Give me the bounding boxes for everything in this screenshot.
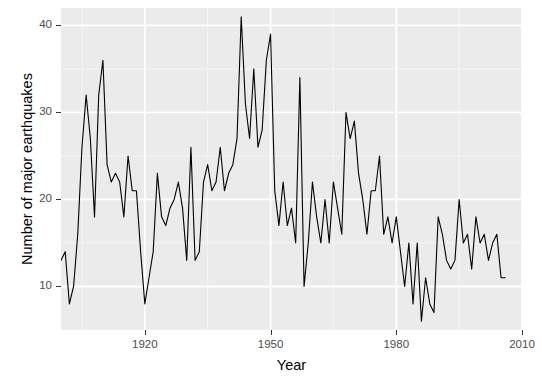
x-tick-label: 2010: [509, 339, 535, 351]
x-tick-mark: [396, 330, 397, 335]
x-tick-mark: [271, 330, 272, 335]
y-axis-title: Number of major earthquakes: [18, 8, 36, 330]
x-tick-label: 1950: [258, 339, 284, 351]
y-tick-mark: [56, 286, 61, 287]
plot-panel: [61, 8, 522, 330]
y-tick-mark: [56, 25, 61, 26]
y-tick-mark: [56, 199, 61, 200]
x-axis-title: Year: [61, 358, 522, 373]
x-tick-label: 1920: [132, 339, 158, 351]
earthquake-line-chart: 10203040 1920195019802010 Year Number of…: [0, 0, 542, 383]
x-tick-label: 1980: [383, 339, 409, 351]
x-tick-mark: [145, 330, 146, 335]
data-series-line: [61, 8, 522, 330]
y-tick-mark: [56, 112, 61, 113]
x-tick-mark: [522, 330, 523, 335]
